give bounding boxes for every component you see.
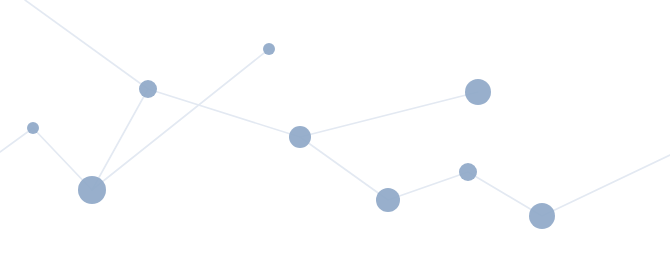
graph-node-n4[interactable] (263, 43, 275, 55)
graph-node-n5[interactable] (289, 126, 311, 148)
graph-node-n2[interactable] (78, 176, 106, 204)
graph-edge (542, 155, 670, 216)
graph-edge (148, 89, 300, 137)
graph-edge (388, 172, 468, 200)
graph-node-n7[interactable] (459, 163, 477, 181)
diagram-canvas (0, 0, 670, 257)
graph-edge (92, 89, 148, 190)
graph-edge (300, 92, 478, 137)
graph-edge (0, 128, 33, 152)
graph-edge (300, 137, 388, 200)
graph-node-n3[interactable] (139, 80, 157, 98)
graph-node-n8[interactable] (465, 79, 491, 105)
graph-edge (25, 0, 148, 89)
graph-node-n1[interactable] (27, 122, 39, 134)
nodes-layer (27, 43, 555, 229)
graph-node-n9[interactable] (529, 203, 555, 229)
graph-node-n6[interactable] (376, 188, 400, 212)
network-graph (0, 0, 670, 257)
